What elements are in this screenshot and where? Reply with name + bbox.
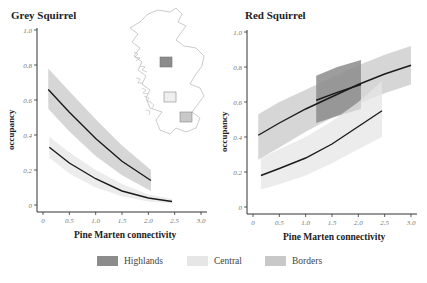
highlands-swatch [97,256,118,266]
x-tick-label: 0.5 [275,219,284,227]
x-tick-label: 2.0 [354,219,363,227]
y-tick-label: 1.0 [23,27,32,35]
borders-swatch [265,256,286,266]
y-tick-label: 0.4 [233,134,242,142]
grey-squirrel-title: Grey Squirrel [11,9,76,21]
legend-item-borders: Borders [265,256,322,266]
x-tick-label: 2.0 [144,217,153,225]
legend-label-borders: Borders [292,256,322,266]
x-tick-label: 2.5 [380,219,389,227]
panel-0: 00.20.40.60.81.000.51.01.52.02.53.0 [23,8,207,225]
x-tick-label: 1.0 [301,219,310,227]
grey-squirrel-x-axis-label: Pine Marten connectivity [74,230,176,240]
y-tick-label: 0.4 [23,132,32,140]
borders-marker [180,112,192,122]
legend-item-highlands: Highlands [97,256,163,266]
y-tick-label: 0 [29,202,33,210]
scotland-map-outline [130,8,204,134]
red-squirrel-y-axis-label: occupancy [219,112,229,153]
x-tick-label: 2.5 [170,217,179,225]
y-tick-label: 0.2 [23,167,32,175]
x-tick-label: 3.0 [406,219,416,227]
y-tick-label: 0.8 [23,62,32,70]
highlands-marker [160,57,172,67]
x-tick-label: 1.5 [328,219,337,227]
y-tick-label: 1.0 [233,29,242,37]
legend-label-highlands: Highlands [124,256,163,266]
y-tick-label: 0.2 [233,169,242,177]
red-squirrel-title: Red Squirrel [245,9,306,21]
central-swatch [187,256,208,266]
y-tick-label: 0.6 [233,99,242,107]
x-tick-label: 0 [251,219,255,227]
legend: Highlands Central Borders [0,256,427,270]
panel-1: 00.20.40.60.81.000.51.01.52.02.53.0 [233,29,417,228]
x-tick-label: 1.5 [118,217,127,225]
y-tick-label: 0 [239,204,243,212]
y-tick-label: 0.8 [233,64,242,72]
red-squirrel-x-axis-label: Pine Marten connectivity [283,232,385,242]
x-tick-label: 1.0 [91,217,100,225]
x-tick-label: 0 [41,217,45,225]
x-tick-label: 0.5 [65,217,74,225]
central-marker [164,92,176,102]
figure: 00.20.40.60.81.000.51.01.52.02.53.000.20… [0,0,427,283]
y-tick-label: 0.6 [23,97,32,105]
x-tick-label: 3.0 [196,217,206,225]
legend-item-central: Central [187,256,242,266]
legend-label-central: Central [214,256,242,266]
grey-squirrel-y-axis-label: occupancy [6,110,16,151]
